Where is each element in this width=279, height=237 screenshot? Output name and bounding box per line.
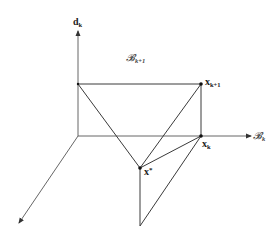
- label-x-k-plus-1: xk+1: [205, 77, 221, 89]
- label-d-k-sub: k: [79, 21, 83, 28]
- label-x-star: x*: [144, 167, 153, 177]
- label-xstar-sup: *: [149, 166, 153, 174]
- diagonal-axis: [19, 136, 78, 223]
- xk-to-xstar-line: [140, 136, 201, 168]
- origin-point: [77, 83, 79, 85]
- corner-to-xstar-line: [78, 84, 140, 168]
- bottom-to-xk-line: [140, 136, 201, 226]
- label-bk-main: 𝓑: [253, 130, 262, 141]
- label-xk1-sub: k+1: [210, 81, 221, 88]
- label-b-k: 𝓑k: [253, 131, 265, 143]
- point-x-k-plus-1: [199, 82, 203, 86]
- label-d-k: dk: [73, 17, 82, 29]
- diagram-canvas: [0, 0, 279, 237]
- label-b-k-plus-1: 𝓑k+1: [126, 53, 145, 65]
- label-xk-sub: k: [207, 143, 211, 150]
- label-x-k: xk: [202, 139, 211, 151]
- label-bk-sub: k: [262, 135, 265, 142]
- point-x-star: [138, 166, 142, 170]
- label-b-k1-main: 𝓑: [126, 52, 135, 63]
- xk1-to-xstar-line: [140, 84, 201, 168]
- label-b-k1-sub: k+1: [135, 57, 145, 64]
